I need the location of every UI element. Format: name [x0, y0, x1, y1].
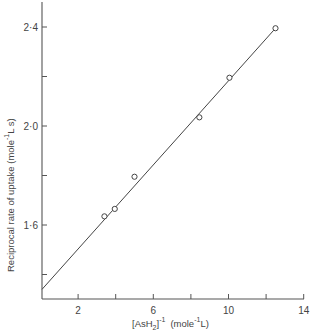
data-point-marker	[227, 75, 232, 80]
y-tick-label: 1·6	[24, 220, 39, 231]
data-point-marker	[112, 206, 117, 211]
y-axis-label: Reciprocal rate of uptake (mole-1L s)	[3, 118, 16, 272]
ticks: 2610141·62·02·4	[24, 22, 310, 316]
axes	[42, 2, 304, 299]
x-axis-label: [AsH2]-1(mole-1L)	[132, 316, 209, 331]
chart: 2610141·62·02·4 [AsH2]-1(mole-1L) Recipr…	[0, 0, 312, 334]
data-point-marker	[197, 115, 202, 120]
data-point-marker	[102, 214, 107, 219]
x-tick-label: 14	[298, 305, 310, 316]
fit-line	[42, 28, 276, 289]
x-tick-label: 10	[223, 305, 235, 316]
data-point-marker	[132, 174, 137, 179]
regression-line	[42, 28, 276, 289]
data-point-marker	[273, 26, 278, 31]
y-tick-label: 2·0	[24, 121, 39, 132]
x-tick-label: 6	[151, 305, 157, 316]
y-tick-label: 2·4	[24, 22, 39, 33]
x-tick-label: 2	[75, 305, 81, 316]
